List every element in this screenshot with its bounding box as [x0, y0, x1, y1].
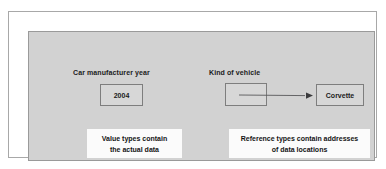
value-type-cell-text: 2004 — [114, 92, 130, 99]
reference-target-text: Corvette — [326, 92, 354, 99]
value-type-caption: Value types contain the actual data — [87, 129, 182, 158]
diagram-panel: Car manufacturer year 2004 Kind of vehic… — [28, 31, 375, 161]
reference-type-label: Kind of vehicle — [209, 69, 260, 76]
reference-target-box: Corvette — [316, 84, 364, 106]
reference-pointer-arrow-icon — [239, 88, 315, 102]
reference-type-caption: Reference types contain addresses of dat… — [229, 129, 370, 158]
value-type-label: Car manufacturer year — [73, 69, 150, 76]
reference-type-caption-line-1: Reference types contain addresses — [241, 133, 359, 144]
diagram-figure: Car manufacturer year 2004 Kind of vehic… — [0, 0, 386, 169]
value-type-box: 2004 — [100, 84, 143, 106]
value-type-caption-line-2: the actual data — [110, 144, 159, 155]
reference-type-caption-line-2: of data locations — [272, 144, 328, 155]
figure-outer-frame: Car manufacturer year 2004 Kind of vehic… — [8, 11, 377, 158]
value-type-caption-line-1: Value types contain — [102, 133, 167, 144]
